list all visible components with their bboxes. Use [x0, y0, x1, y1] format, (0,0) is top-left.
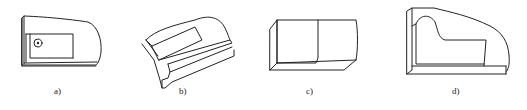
panel-a: a): [0, 0, 130, 110]
panel-d-label: d): [452, 86, 460, 96]
panel-c-label: c): [306, 86, 313, 96]
panel-b-drawing: [130, 0, 260, 110]
panel-a-label: a): [54, 86, 61, 96]
panel-c: c): [260, 0, 390, 110]
panel-b: b): [130, 0, 260, 110]
panel-b-label: b): [179, 86, 187, 96]
panel-d: d): [390, 0, 527, 110]
panel-c-drawing: [260, 0, 390, 110]
panel-a-drawing: [0, 0, 130, 110]
